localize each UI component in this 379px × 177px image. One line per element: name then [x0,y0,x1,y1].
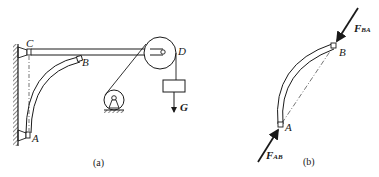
label-g: G [180,102,188,113]
winch [104,90,124,113]
mechanics-diagram [0,0,379,177]
weight-block [163,80,185,92]
label-a: A [32,133,39,144]
f-ba-sub: BA [361,26,370,34]
label-f-ba: FBA [354,23,371,34]
figure-b [258,8,358,162]
wall-support [13,44,18,146]
label-f-ab: FAB [266,150,283,161]
figure-a [13,37,185,146]
cable-winch [105,44,146,95]
label-c: C [26,38,33,49]
label-b: B [82,57,89,68]
curved-bar-ab [26,55,83,133]
pulley-d [144,37,176,69]
f-ab-sub: AB [273,153,282,161]
caption-b: (b) [303,157,315,167]
pin-support-a [18,130,30,141]
label-a-free: A [285,122,292,133]
caption-a: (a) [93,158,104,168]
label-b-free: B [339,47,346,58]
label-d: D [178,46,186,57]
